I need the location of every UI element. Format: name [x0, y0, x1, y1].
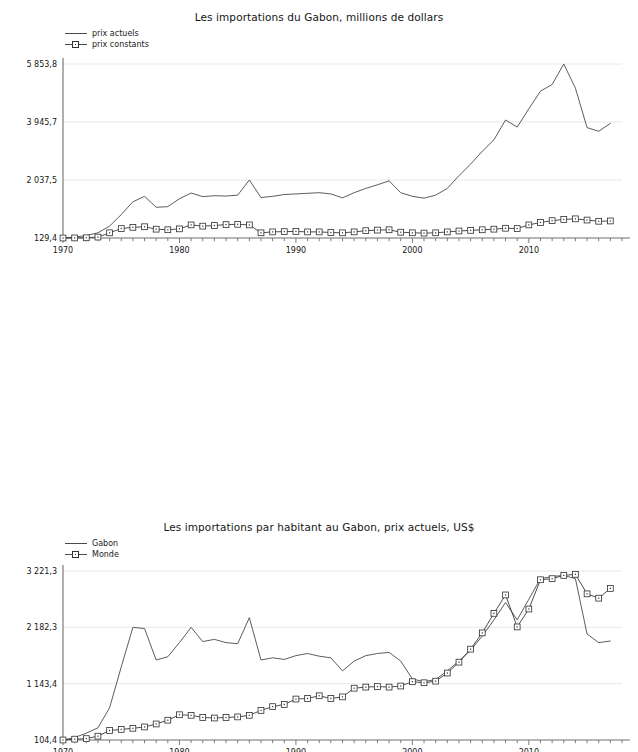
- series-point-center: [109, 232, 110, 233]
- series-point-center: [540, 222, 541, 223]
- y-axis-tick-label: 3 945,7: [26, 118, 57, 127]
- series-point-center: [388, 229, 389, 230]
- series-point-center: [179, 228, 180, 229]
- series-point-center: [563, 219, 564, 220]
- series-point-center: [598, 221, 599, 222]
- x-axis-tick-label: 1970: [53, 246, 73, 255]
- series-point-center: [97, 236, 98, 237]
- x-axis-tick-label: 2000: [402, 246, 422, 255]
- series-point-center: [132, 227, 133, 228]
- series-point-center: [307, 231, 308, 232]
- series-point-center: [260, 232, 261, 233]
- series-point-center: [575, 218, 576, 219]
- series-point-center: [482, 229, 483, 230]
- series-point-center: [237, 224, 238, 225]
- y-axis-tick-label: 2 037,5: [26, 176, 57, 185]
- chart-canvas-1: 129,42 037,53 945,75 853,819701980199020…: [0, 0, 638, 258]
- x-axis-tick-label: 2010: [519, 246, 539, 255]
- series-point-center: [517, 228, 518, 229]
- series-point-center: [470, 230, 471, 231]
- series-point-center: [295, 231, 296, 232]
- chart-block-imports-total: Les importations du Gabon, millions de d…: [0, 0, 638, 258]
- chart-page: Les importations du Gabon, millions de d…: [0, 0, 638, 752]
- series-point-center: [62, 237, 63, 238]
- series-point-center: [249, 224, 250, 225]
- series-point-center: [214, 225, 215, 226]
- series-point-center: [86, 237, 87, 238]
- y-axis-tick-label: 5 853,8: [26, 60, 57, 69]
- series-point-center: [552, 220, 553, 221]
- series-point-center: [272, 231, 273, 232]
- series-point-center: [319, 231, 320, 232]
- series-point-center: [400, 232, 401, 233]
- chart-block-imports-per-capita: Les importations par habitant au Gabon, …: [0, 258, 638, 505]
- series-point-center: [610, 220, 611, 221]
- series-point-center: [412, 232, 413, 233]
- series-point-center: [505, 228, 506, 229]
- series-point-center: [342, 232, 343, 233]
- series-point-center: [447, 231, 448, 232]
- series-point-center: [586, 219, 587, 220]
- series-point-center: [330, 232, 331, 233]
- series-point-center: [284, 231, 285, 232]
- series-point-center: [144, 226, 145, 227]
- series-point-center: [365, 230, 366, 231]
- series-point-center: [354, 231, 355, 232]
- series-line-prix-actuels: [63, 64, 610, 238]
- series-point-center: [191, 224, 192, 225]
- y-axis-tick-label: 129,4: [34, 234, 57, 243]
- series-point-center: [74, 237, 75, 238]
- series-point-center: [202, 226, 203, 227]
- x-axis-tick-label: 1990: [286, 246, 306, 255]
- series-point-center: [225, 224, 226, 225]
- series-point-center: [156, 229, 157, 230]
- series-point-center: [377, 229, 378, 230]
- series-point-center: [435, 232, 436, 233]
- series-point-center: [423, 233, 424, 234]
- series-point-center: [458, 230, 459, 231]
- series-point-center: [167, 229, 168, 230]
- series-point-center: [528, 224, 529, 225]
- series-point-center: [121, 228, 122, 229]
- series-point-center: [493, 229, 494, 230]
- chart-block-imports-growth: La croissance des importations au Gabon,…: [0, 505, 638, 752]
- x-axis-tick-label: 1980: [169, 246, 189, 255]
